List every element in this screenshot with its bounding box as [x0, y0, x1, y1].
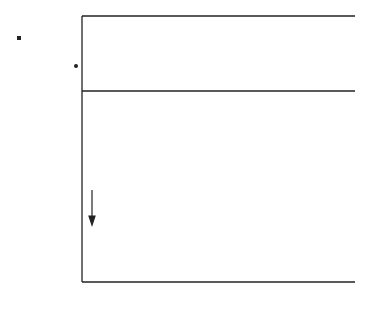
square-marker-icon	[17, 36, 21, 40]
axes	[82, 16, 355, 282]
rain-arrow-icon	[89, 190, 95, 225]
circle-marker-icon	[74, 64, 78, 68]
legend-temperature	[14, 31, 21, 42]
chart-canvas	[0, 0, 372, 328]
top-panel	[82, 16, 355, 91]
